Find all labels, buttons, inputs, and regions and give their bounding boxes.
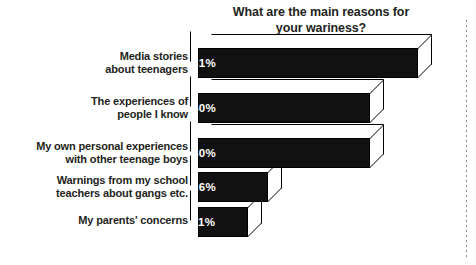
bar-value-label: 40% xyxy=(192,138,364,168)
category-label-line: My own personal experiences xyxy=(36,140,188,152)
category-label-line: My parents' concerns xyxy=(78,214,188,226)
category-label: My parents' concerns xyxy=(0,214,188,227)
page-scan-dotted-line xyxy=(466,20,467,258)
chart-root: What are the main reasons for your warin… xyxy=(0,0,476,265)
category-label: Media stories about teenagers xyxy=(0,50,188,75)
category-label: My own personal experiences with other t… xyxy=(0,140,188,165)
bar-value-label: 11% xyxy=(192,207,242,237)
plot-area: Media stories about teenagers 51% The ex… xyxy=(0,0,476,265)
bar-value-label: 16% xyxy=(192,172,262,202)
category-label: The experiences of people I know xyxy=(0,95,188,120)
category-label-line: Media stories xyxy=(120,50,188,62)
category-label: Warnings from my school teachers about g… xyxy=(0,174,188,199)
category-label-line: teachers about gangs etc. xyxy=(56,187,188,199)
category-label-line: Warnings from my school xyxy=(57,174,188,186)
bar-value-label: 51% xyxy=(192,48,412,78)
category-label-line: with other teenage boys xyxy=(66,153,188,165)
bar-top-face xyxy=(198,79,384,93)
bar-top-face xyxy=(198,34,432,48)
bar-top-face xyxy=(198,124,384,138)
category-label-line: people I know xyxy=(117,108,188,120)
category-label-line: about teenagers xyxy=(105,63,188,75)
bar-row: My parents' concerns 11% xyxy=(0,207,476,253)
category-label-line: The experiences of xyxy=(91,95,188,107)
bar-value-label: 40% xyxy=(192,93,364,123)
